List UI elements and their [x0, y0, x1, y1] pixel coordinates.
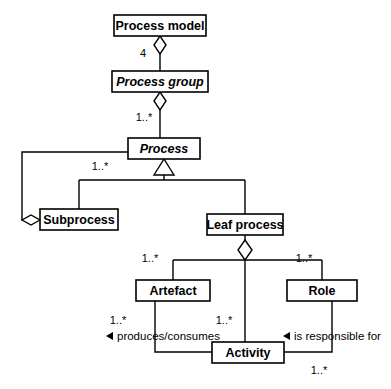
- connector-role-activity: [284, 301, 332, 352]
- class-box-artefact[interactable]: Artefact: [136, 280, 210, 301]
- multiplicity-artefact-activity: 1..*: [110, 314, 127, 326]
- multiplicity-process-subprocess: 1..*: [92, 160, 109, 172]
- association-label-is-responsible-for: is responsible for: [294, 330, 381, 342]
- association-label-produces-consumes: produces/consumes: [117, 330, 220, 342]
- aggregation-diamond-process-model: [154, 36, 166, 54]
- class-box-process[interactable]: Process: [128, 138, 200, 159]
- class-box-process-group[interactable]: Process group: [112, 71, 208, 92]
- aggregation-diamond-leaf-process: [238, 240, 252, 260]
- diagram-canvas: Process model Process group Process Subp…: [0, 0, 391, 389]
- class-name-activity: Activity: [225, 346, 270, 360]
- direction-triangle-produces-consumes: [106, 332, 113, 340]
- multiplicity-leaf-process-role: 1..*: [296, 252, 313, 264]
- class-box-subprocess[interactable]: Subprocess: [40, 209, 118, 230]
- class-name-subprocess: Subprocess: [43, 213, 115, 227]
- multiplicity-process-group-process: 1..*: [136, 111, 153, 123]
- multiplicity-process-model-process-group: 4: [140, 47, 146, 59]
- class-name-artefact: Artefact: [149, 284, 197, 298]
- class-name-process: Process: [140, 142, 189, 156]
- class-box-process-model[interactable]: Process model: [114, 15, 206, 36]
- generalization-triangle-process: [154, 159, 174, 175]
- multiplicity-leaf-process-activity: 1..*: [216, 314, 233, 326]
- class-box-role[interactable]: Role: [287, 280, 357, 301]
- class-name-leaf-process: Leaf process: [206, 218, 283, 232]
- direction-triangle-is-responsible-for: [283, 332, 290, 340]
- multiplicity-leaf-process-artefact: 1..*: [142, 252, 159, 264]
- uml-class-diagram: Process model Process group Process Subp…: [0, 0, 391, 389]
- connector-artefact-activity: [155, 301, 212, 352]
- multiplicity-role-activity: 1..*: [311, 364, 328, 376]
- class-box-leaf-process[interactable]: Leaf process: [206, 214, 283, 235]
- aggregation-diamond-process-group: [154, 92, 166, 110]
- class-name-process-group: Process group: [116, 75, 204, 89]
- class-name-role: Role: [308, 284, 335, 298]
- class-box-activity[interactable]: Activity: [212, 342, 284, 363]
- class-name-process-model: Process model: [116, 19, 205, 33]
- aggregation-diamond-subprocess: [22, 215, 40, 225]
